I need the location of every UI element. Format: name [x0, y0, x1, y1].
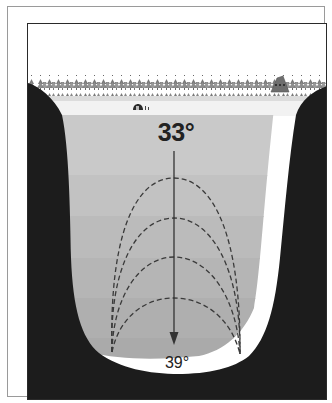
surface-temperature-label: 33° [156, 118, 196, 147]
snow-shadow [28, 96, 327, 101]
lake-diagram [28, 24, 327, 400]
diagram-frame: 33° 39° [27, 23, 327, 400]
outer-frame: 33° 39° [7, 6, 325, 397]
bottom-temperature-label: 39° [157, 354, 197, 372]
